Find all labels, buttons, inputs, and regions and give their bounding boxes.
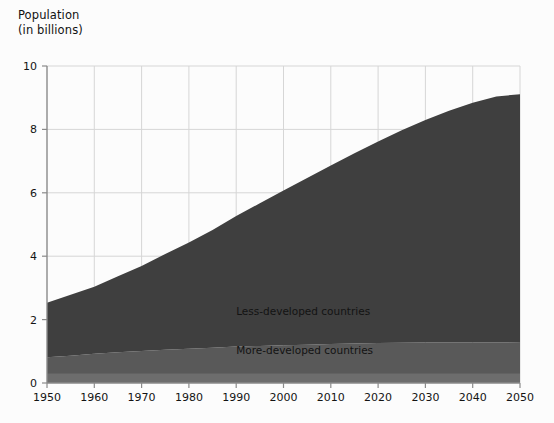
population-area-chart: Population (in billions) 195019601970198… (0, 0, 554, 423)
x-tick-label: 1950 (33, 391, 61, 404)
x-tick-label: 1970 (128, 391, 156, 404)
x-tick-label: 2050 (506, 391, 534, 404)
x-axis-ticks: 1950196019701980199020002010202020302040… (33, 383, 534, 404)
series-annotation: Less-developed countries (236, 305, 370, 317)
series-annotation: More-developed countries (236, 344, 373, 356)
x-tick-label: 2010 (317, 391, 345, 404)
y-axis-ticks: 0246810 (23, 60, 47, 390)
y-tick-label: 4 (30, 250, 37, 263)
x-tick-label: 2000 (270, 391, 298, 404)
x-tick-label: 2020 (364, 391, 392, 404)
x-tick-label: 1980 (175, 391, 203, 404)
chart-canvas: 1950196019701980199020002010202020302040… (0, 0, 554, 423)
x-tick-label: 2030 (411, 391, 439, 404)
y-tick-label: 6 (30, 187, 37, 200)
x-tick-label: 2040 (459, 391, 487, 404)
y-tick-label: 2 (30, 314, 37, 327)
x-tick-label: 1990 (222, 391, 250, 404)
y-tick-label: 10 (23, 60, 37, 73)
x-tick-label: 1960 (80, 391, 108, 404)
area-base-band (47, 373, 520, 383)
y-tick-label: 8 (30, 123, 37, 136)
y-tick-label: 0 (30, 377, 37, 390)
